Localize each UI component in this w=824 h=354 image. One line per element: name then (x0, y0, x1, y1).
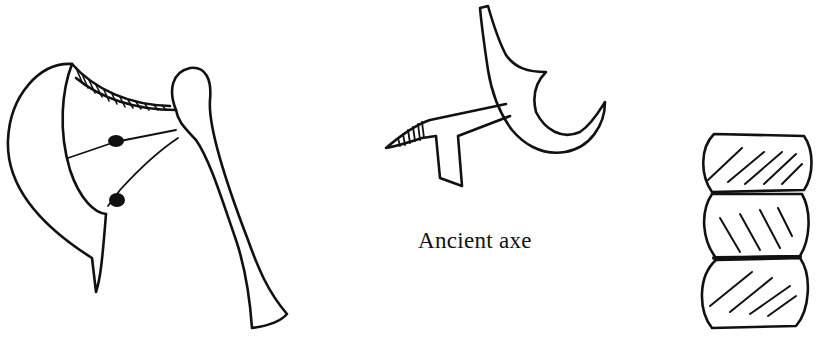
illustration-canvas (0, 0, 824, 354)
binding-knot-lower (109, 193, 125, 207)
antler-axe-drawing (386, 6, 605, 186)
binding-knot-upper (108, 135, 124, 147)
stone-middle (704, 194, 808, 258)
figure-caption: Ancient axe (418, 228, 532, 254)
hafted-axe-drawing (8, 64, 287, 328)
stacked-stones-drawing (702, 134, 812, 328)
stone-top (703, 134, 811, 192)
axe-handle (172, 68, 287, 328)
axe-blade-outline (8, 64, 106, 292)
antler-outline (480, 6, 605, 153)
stone-hatching (708, 148, 802, 316)
